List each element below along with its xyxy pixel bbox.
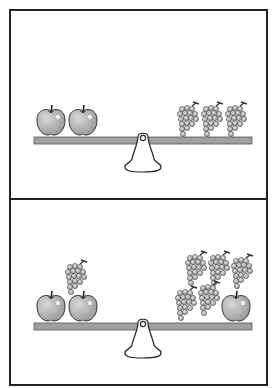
grapes-icon: [225, 102, 247, 137]
grapes-icon: [65, 260, 87, 295]
grapes-icon: [185, 251, 207, 286]
scales-illustration: [0, 0, 279, 388]
grapes-icon: [201, 102, 223, 137]
grapes-icon: [198, 281, 220, 316]
apple-icon: [222, 291, 250, 321]
grapes-icon: [175, 286, 197, 321]
apple-icon: [37, 105, 65, 135]
apple-icon: [37, 291, 65, 321]
scale-bottom: [34, 251, 253, 358]
apple-icon: [69, 105, 97, 135]
grapes-icon: [231, 254, 253, 289]
grapes-icon: [177, 102, 199, 137]
puzzle-canvas: [0, 0, 279, 388]
scale-top: [34, 102, 252, 172]
grapes-icon: [208, 251, 230, 286]
apple-icon: [69, 291, 97, 321]
